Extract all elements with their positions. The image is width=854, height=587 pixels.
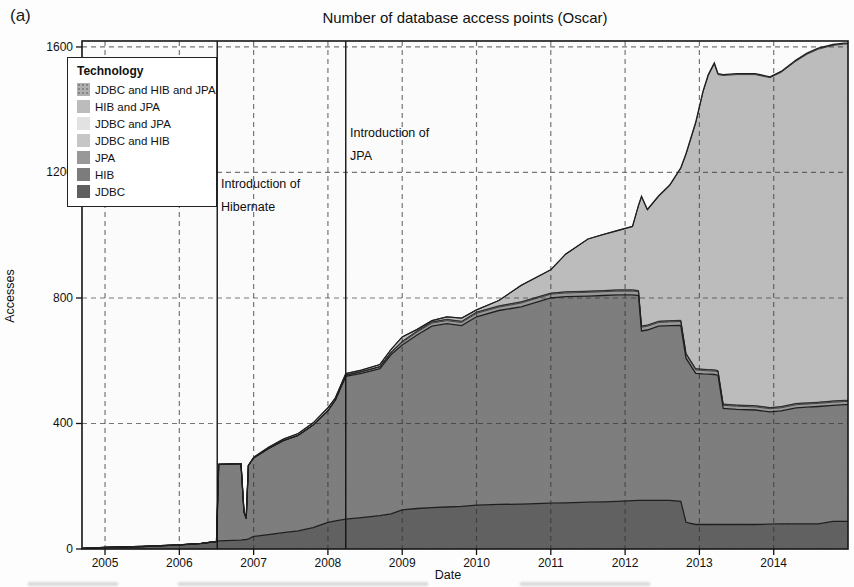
svg-text:2012: 2012 (612, 556, 639, 570)
cropped-caption-smudge (178, 582, 428, 586)
legend-swatch-jdbc-hib-icon (77, 134, 90, 147)
svg-text:2013: 2013 (686, 556, 713, 570)
legend-item: HIB and JPA (68, 98, 216, 115)
legend-label: JPA (95, 152, 115, 164)
legend-swatch-jdbc-icon (77, 185, 90, 198)
svg-text:400: 400 (53, 416, 73, 430)
legend-item: JDBC and JPA (68, 115, 216, 132)
svg-text:2011: 2011 (538, 556, 564, 570)
legend-label: HIB (95, 169, 114, 181)
annotation-line: JPA (350, 145, 429, 168)
legend-label: JDBC and JPA (95, 118, 171, 130)
legend-label: JDBC (95, 186, 125, 198)
annotation-line: Introduction of (350, 122, 429, 145)
legend: Technology JDBC and HIB and JPA HIB and … (67, 57, 217, 207)
cropped-caption-smudge (28, 582, 118, 586)
legend-item: JDBC and HIB (68, 132, 216, 149)
x-axis-label: Date (408, 568, 488, 582)
svg-text:0: 0 (66, 542, 73, 556)
legend-swatch-hib-icon (77, 168, 90, 181)
legend-item: JDBC (68, 183, 216, 200)
legend-title: Technology (68, 62, 216, 81)
chart-title: Number of database access points (Oscar) (82, 9, 848, 26)
svg-text:2007: 2007 (240, 556, 267, 570)
figure-panel-label: (a) (10, 6, 31, 26)
annotation-line: Introduction of (221, 173, 300, 196)
legend-swatch-hib-jpa-icon (77, 100, 90, 113)
annotation-introduction-of-hibernate: Introduction of Hibernate (221, 173, 300, 219)
y-axis-label: Accesses (3, 256, 17, 336)
svg-text:1600: 1600 (46, 40, 73, 54)
legend-label: JDBC and HIB and JPA (95, 84, 216, 96)
annotation-line: Hibernate (221, 196, 300, 219)
legend-label: HIB and JPA (95, 101, 160, 113)
svg-text:2006: 2006 (166, 556, 193, 570)
svg-text:2014: 2014 (760, 556, 787, 570)
legend-swatch-jpa-icon (77, 151, 90, 164)
legend-item: HIB (68, 166, 216, 183)
svg-text:2008: 2008 (315, 556, 342, 570)
cropped-caption-smudge (520, 582, 650, 586)
legend-item: JPA (68, 149, 216, 166)
legend-label: JDBC and HIB (95, 135, 170, 147)
svg-text:2005: 2005 (92, 556, 119, 570)
legend-swatch-jdbc-hib-jpa-icon (77, 83, 90, 96)
figure: 0400800120016002005200620072008200920102… (0, 0, 854, 587)
annotation-introduction-of-jpa: Introduction of JPA (350, 122, 429, 168)
legend-swatch-jdbc-jpa-icon (77, 117, 90, 130)
svg-text:800: 800 (53, 291, 73, 305)
legend-item: JDBC and HIB and JPA (68, 81, 216, 98)
